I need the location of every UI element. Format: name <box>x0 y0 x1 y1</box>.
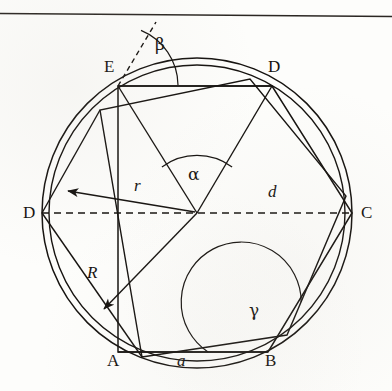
angle-gamma-label: γ <box>249 302 259 319</box>
radius-line-to-E <box>118 86 197 213</box>
vertex-label-B: B <box>265 352 276 369</box>
diameter-label: d <box>268 183 277 200</box>
beta-extension-dashed-line <box>118 22 156 86</box>
vertex-label-D-left: D <box>23 204 35 221</box>
circumradius-label: R <box>87 264 97 281</box>
vertex-label-C: C <box>361 204 372 221</box>
vertex-label-A: A <box>107 352 119 369</box>
inradius-label: r <box>134 177 141 194</box>
figure-canvas <box>0 0 392 391</box>
vertex-label-D-right: D <box>268 58 280 75</box>
header-rule <box>0 14 392 17</box>
geometry-figure: E D D C A B r R d a α β γ <box>0 0 392 391</box>
inradius-arrow <box>68 191 195 212</box>
radius-line-to-D <box>197 86 272 213</box>
vertex-label-E: E <box>104 58 114 75</box>
angle-alpha-label: α <box>188 166 199 183</box>
side-label: a <box>177 352 186 369</box>
secondary-pentagon <box>100 79 346 357</box>
angle-beta-label: β <box>155 36 165 53</box>
